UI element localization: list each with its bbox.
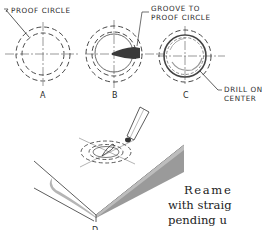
body-text-line: Reame bbox=[168, 183, 262, 198]
panel-d-label: D bbox=[92, 226, 98, 230]
groove-callout-line2: PROOF CIRCLE bbox=[151, 13, 211, 22]
panel-a-label: A bbox=[40, 91, 46, 100]
proof-circle-callout: PROOF CIRCLE bbox=[11, 6, 71, 15]
body-text-column: Reame with straig pending u ting actio bbox=[168, 183, 262, 230]
panel-b-label: B bbox=[112, 91, 118, 100]
panel-c-label: C bbox=[183, 91, 189, 100]
drill-callout-line1: DRILL ON bbox=[224, 85, 262, 94]
panel-a: PROOF CIRCLE A bbox=[4, 6, 80, 100]
panel-c: DRILL ON CENTER C bbox=[158, 26, 262, 103]
panel-b: GROOVE TO PROOF CIRCLE B bbox=[85, 4, 211, 100]
panel-d: D bbox=[34, 107, 184, 230]
body-text-line: with straig bbox=[168, 198, 262, 213]
body-text-line: pending u bbox=[168, 213, 262, 228]
body-text-line: ting actio bbox=[168, 228, 262, 230]
chisel-icon bbox=[125, 107, 149, 142]
groove-callout-line1: GROOVE TO bbox=[151, 4, 200, 13]
drill-callout-line2: CENTER bbox=[224, 94, 256, 103]
